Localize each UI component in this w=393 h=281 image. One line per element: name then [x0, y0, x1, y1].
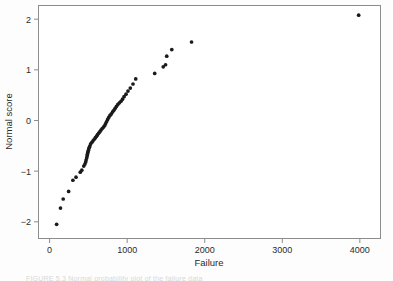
y-axis-tick-label: 0 — [26, 116, 31, 126]
data-point — [134, 77, 138, 81]
figure-container: −2−101201000200030004000FailureNormal sc… — [0, 0, 393, 281]
data-point — [67, 190, 71, 194]
y-axis-tick-label: −2 — [21, 217, 31, 227]
data-point — [74, 175, 78, 179]
y-axis-title: Normal score — [3, 93, 14, 150]
figure-caption: FIGURE 5.3 Normal probability plot of th… — [0, 274, 393, 281]
data-point — [131, 82, 135, 86]
y-axis-tick-label: −1 — [21, 167, 31, 177]
data-point — [165, 54, 169, 58]
x-axis-tick-label: 3000 — [272, 245, 292, 255]
data-point — [170, 48, 174, 52]
x-axis-tick-label: 2000 — [195, 245, 215, 255]
x-axis-tick-label: 1000 — [117, 245, 137, 255]
x-axis-title: Failure — [194, 257, 223, 268]
x-axis-tick-label: 0 — [47, 245, 52, 255]
data-point — [124, 92, 128, 96]
data-point — [128, 86, 132, 90]
x-axis-tick-label: 4000 — [350, 245, 370, 255]
y-axis-tick-label: 2 — [26, 15, 31, 25]
data-point — [153, 72, 157, 76]
plot-background — [38, 5, 380, 238]
data-point — [55, 222, 59, 226]
y-axis-tick-label: 1 — [26, 65, 31, 75]
data-point — [61, 197, 65, 201]
data-point — [357, 13, 361, 17]
data-point — [80, 168, 84, 172]
data-point — [164, 63, 168, 67]
data-point — [190, 40, 194, 44]
data-point — [126, 89, 130, 93]
normal-probability-plot: −2−101201000200030004000FailureNormal sc… — [0, 0, 393, 281]
data-point — [71, 178, 75, 182]
data-point — [59, 206, 63, 210]
